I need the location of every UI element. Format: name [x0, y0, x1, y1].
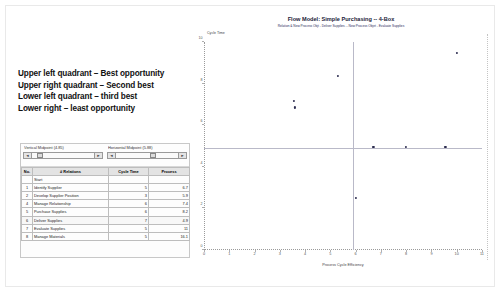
- vertical-slider-increment[interactable]: ►: [94, 153, 102, 158]
- cell-cycle[interactable]: 7: [109, 216, 149, 224]
- table-row[interactable]: 4 Manage Relationship 6 7.4: [22, 200, 190, 208]
- cell-relation[interactable]: Purchase Supplies: [33, 208, 109, 216]
- vertical-midpoint-control[interactable]: Vertical Midpoint (4.85) ◄ ►: [23, 145, 103, 159]
- scatter-point[interactable]: [293, 100, 295, 102]
- x-axis-tick-label: 0: [203, 252, 205, 256]
- y-axis-tick-label: 0: [201, 244, 203, 248]
- quadrant-scatter-chart[interactable]: Flow Model: Simple Purchasing -- 4-Box R…: [190, 16, 492, 278]
- quadrant-note-1: Upper left quadrant – Best opportunity: [18, 68, 198, 80]
- cell-no[interactable]: 6: [22, 216, 33, 224]
- x-axis-tick-label: 1: [228, 252, 230, 256]
- cell-relation[interactable]: Develop Supplier Position: [33, 192, 109, 200]
- quadrant-legend-text: Upper left quadrant – Best opportunity U…: [18, 68, 198, 114]
- cell-relation[interactable]: Evaluate Supplies: [33, 224, 109, 232]
- table-row[interactable]: 6 Deliver Supplies 7 4.9: [22, 216, 190, 224]
- horizontal-slider-thumb[interactable]: [150, 153, 156, 158]
- horizontal-slider-decrement[interactable]: ◄: [108, 153, 116, 158]
- x-axis-tick-label: 7: [380, 252, 382, 256]
- cell-cycle[interactable]: 6: [109, 208, 149, 216]
- cell-relation[interactable]: Deliver Supplies: [33, 216, 109, 224]
- cell-process[interactable]: 16.1: [149, 232, 190, 240]
- cell-process[interactable]: 11: [149, 224, 190, 232]
- x-axis-tick: [406, 250, 407, 252]
- cell-cycle[interactable]: 6: [109, 200, 149, 208]
- cell-process[interactable]: 4.9: [149, 216, 190, 224]
- y-axis-tick: [202, 124, 204, 125]
- cell-no[interactable]: 8: [22, 232, 33, 240]
- cell-no[interactable]: 2: [22, 192, 33, 200]
- x-axis-tick: [229, 250, 230, 252]
- table-row[interactable]: Start: [22, 176, 190, 184]
- chart-right-edge: [487, 34, 488, 260]
- chart-subtitle: Relation & New Process Objt - Deliver Su…: [190, 24, 492, 28]
- cell-process[interactable]: 7.4: [149, 200, 190, 208]
- quadrant-note-2: Upper right quadrant – Second best: [18, 80, 198, 92]
- y-axis-tick: [202, 41, 204, 42]
- x-axis-label: Process Cycle Efficiency: [204, 263, 482, 267]
- table-row[interactable]: 7 Evaluate Supplies 5 11: [22, 224, 190, 232]
- cell-cycle[interactable]: 5: [109, 184, 149, 192]
- table-row[interactable]: 8 Manage Materials 5 16.1: [22, 232, 190, 240]
- y-axis-tick-label: 6: [201, 119, 203, 123]
- embedded-spreadsheet[interactable]: Vertical Midpoint (4.85) ◄ ► Horizontal …: [20, 143, 190, 258]
- col-header-relations[interactable]: # Relations: [33, 168, 109, 176]
- col-header-no[interactable]: No.: [22, 168, 33, 176]
- cell-relation[interactable]: Start: [33, 176, 109, 184]
- y-axis: [204, 42, 205, 250]
- col-header-cycle-time[interactable]: Cycle Time: [109, 168, 149, 176]
- horizontal-midpoint-control[interactable]: Horizontal Midpoint (5.88) ◄ ►: [107, 145, 187, 159]
- horizontal-slider-track[interactable]: [116, 153, 178, 158]
- plot-area[interactable]: Cycle Time Process Cycle Efficiency 0246…: [204, 42, 482, 250]
- x-axis: [204, 249, 482, 250]
- cell-cycle[interactable]: 5: [109, 232, 149, 240]
- cell-process[interactable]: 5.9: [149, 192, 190, 200]
- x-axis-tick: [255, 250, 256, 252]
- x-axis-tick: [356, 250, 357, 252]
- scatter-point[interactable]: [355, 197, 357, 199]
- x-axis-tick-label: 8: [405, 252, 407, 256]
- cell-cycle[interactable]: 3: [109, 192, 149, 200]
- table-row[interactable]: 5 Purchase Supplies 6 8.2: [22, 208, 190, 216]
- y-axis-tick-label: 4: [201, 161, 203, 165]
- x-axis-tick: [457, 250, 458, 252]
- horizontal-midpoint-slider[interactable]: ◄ ►: [107, 152, 187, 159]
- x-axis-tick: [204, 250, 205, 252]
- cell-no[interactable]: [22, 176, 33, 184]
- vertical-midpoint-label: Vertical Midpoint (4.85): [23, 145, 103, 151]
- table-row[interactable]: 2 Develop Supplier Position 3 5.9: [22, 192, 190, 200]
- cell-cycle[interactable]: [109, 176, 149, 184]
- vertical-slider-decrement[interactable]: ◄: [24, 153, 32, 158]
- cell-no[interactable]: 1: [22, 184, 33, 192]
- cell-relation[interactable]: Manage Relationship: [33, 200, 109, 208]
- cell-process[interactable]: 8.2: [149, 208, 190, 216]
- cell-relation[interactable]: Identify Supplier: [33, 184, 109, 192]
- table-row[interactable]: 1 Identify Supplier 5 6.7: [22, 184, 190, 192]
- horizontal-midpoint-label: Horizontal Midpoint (5.88): [107, 145, 187, 151]
- quadrant-note-3: Lower left quadrant – third best: [18, 91, 198, 103]
- x-axis-tick: [381, 250, 382, 252]
- y-axis-tick-label: 2: [201, 202, 203, 206]
- cell-no[interactable]: 5: [22, 208, 33, 216]
- cell-cycle[interactable]: 5: [109, 224, 149, 232]
- cell-relation[interactable]: Manage Materials: [33, 232, 109, 240]
- vertical-slider-track[interactable]: [32, 153, 94, 158]
- scatter-point[interactable]: [294, 106, 296, 108]
- table-body: Start 1 Identify Supplier 5 6.7 2 Develo…: [22, 176, 190, 241]
- col-header-process[interactable]: Process: [149, 168, 190, 176]
- vertical-slider-thumb[interactable]: [37, 153, 43, 158]
- vertical-midpoint-slider[interactable]: ◄ ►: [23, 152, 103, 159]
- cell-no[interactable]: 7: [22, 224, 33, 232]
- cell-process[interactable]: [149, 176, 190, 184]
- x-axis-tick-label: 2: [253, 252, 255, 256]
- x-axis-tick-label: 3: [279, 252, 281, 256]
- scatter-point[interactable]: [337, 75, 339, 77]
- cell-no[interactable]: 4: [22, 200, 33, 208]
- midpoint-controls: Vertical Midpoint (4.85) ◄ ► Horizontal …: [21, 144, 189, 167]
- x-axis-tick: [305, 250, 306, 252]
- slide-canvas: Upper left quadrant – Best opportunity U…: [0, 0, 501, 293]
- scatter-point[interactable]: [456, 52, 458, 54]
- vertical-quadrant-divider: [353, 42, 354, 250]
- cell-process[interactable]: 6.7: [149, 184, 190, 192]
- horizontal-slider-increment[interactable]: ►: [178, 153, 186, 158]
- relations-table[interactable]: No. # Relations Cycle Time Process Start…: [21, 167, 190, 241]
